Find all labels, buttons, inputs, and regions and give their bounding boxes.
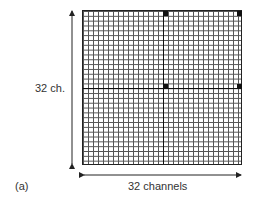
grid-center-horizontal-line — [83, 88, 241, 89]
marked-cell — [163, 11, 168, 16]
horizontal-label: 32 channels — [128, 180, 187, 192]
marked-cell — [163, 84, 168, 89]
panel-label: (a) — [15, 180, 28, 192]
channel-grid — [82, 10, 242, 165]
marked-cell — [237, 84, 242, 89]
vertical-label: 32 ch. — [35, 82, 65, 94]
marked-cell — [237, 11, 242, 16]
